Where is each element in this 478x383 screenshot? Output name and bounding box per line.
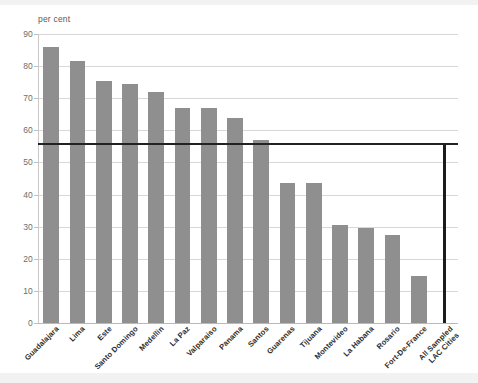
bar[interactable]	[43, 47, 59, 323]
bar[interactable]	[70, 61, 86, 323]
bar[interactable]	[280, 183, 296, 323]
bar[interactable]	[411, 276, 427, 323]
y-axis-tick-label: 10	[23, 286, 33, 296]
bar[interactable]	[201, 108, 217, 323]
bar[interactable]	[385, 235, 401, 323]
bar[interactable]	[148, 92, 164, 323]
x-axis-tick-label: Lima	[69, 325, 88, 344]
bar[interactable]	[306, 183, 322, 323]
y-axis-tick-label: 0	[28, 318, 33, 328]
x-axis-tick-label: Guadalajara	[24, 325, 62, 363]
x-axis-tick-label: Este	[96, 325, 114, 343]
bar[interactable]	[96, 81, 112, 323]
plot-area: 0102030405060708090	[38, 34, 458, 323]
y-axis-tick-label: 70	[23, 93, 33, 103]
y-axis-tick-label: 90	[23, 29, 33, 39]
y-axis-tick-label: 20	[23, 254, 33, 264]
y-axis-tick-label: 50	[23, 157, 33, 167]
x-axis-tick-label: Medellin	[138, 325, 166, 353]
x-axis-labels: GuadalajaraLimaEsteSanto DomingoMedellin…	[38, 325, 458, 383]
bar-series	[38, 34, 458, 323]
y-axis-unit-label: per cent	[38, 14, 70, 24]
bar[interactable]	[227, 118, 243, 324]
bar[interactable]	[358, 228, 374, 323]
bar[interactable]	[253, 140, 269, 323]
bar[interactable]	[122, 84, 138, 323]
top-band	[0, 0, 478, 5]
x-axis-tick-label: La Paz	[169, 325, 193, 349]
x-axis-tick-label: Guarenas	[266, 325, 297, 356]
x-axis-tick-label: Panama	[218, 325, 245, 352]
bar[interactable]	[175, 108, 191, 323]
y-axis-tick-label: 60	[23, 125, 33, 135]
chart-canvas: per cent 0102030405060708090 Guadalajara…	[0, 0, 478, 383]
bar[interactable]	[332, 225, 348, 323]
y-axis-tick-mark	[34, 323, 38, 324]
y-axis-tick-label: 80	[23, 61, 33, 71]
y-axis-tick-label: 40	[23, 190, 33, 200]
bar-all-sampled-lac-cities[interactable]	[443, 143, 446, 323]
y-axis-tick-label: 30	[23, 222, 33, 232]
